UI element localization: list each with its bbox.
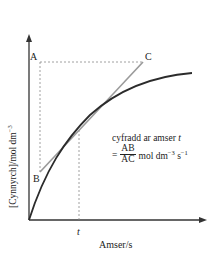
y-axis-arrow-icon: [26, 34, 32, 42]
y-axis-label: [Cynnyrch]/mol dm−3: [6, 125, 18, 208]
t-tick-label: t: [77, 227, 80, 237]
formula-line2: = AB AC mol dm−3 s−1: [112, 144, 188, 165]
x-axis-label: Amser/s: [99, 240, 132, 250]
point-B-label: B: [33, 174, 40, 184]
denominator: AC: [121, 155, 134, 165]
formula-line1: cyfradd ar amser t: [112, 133, 188, 143]
equals-sign: =: [112, 150, 117, 160]
rate-formula: cyfradd ar amser t = AB AC mol dm−3 s−1: [112, 133, 188, 165]
point-C-label: C: [145, 52, 152, 62]
rate-graph: [0, 0, 216, 259]
fraction-AB-over-AC: AB AC: [120, 144, 135, 165]
units: mol dm−3 s−1: [139, 149, 188, 161]
x-axis-arrow-icon: [199, 217, 207, 223]
point-A-label: A: [30, 52, 37, 62]
